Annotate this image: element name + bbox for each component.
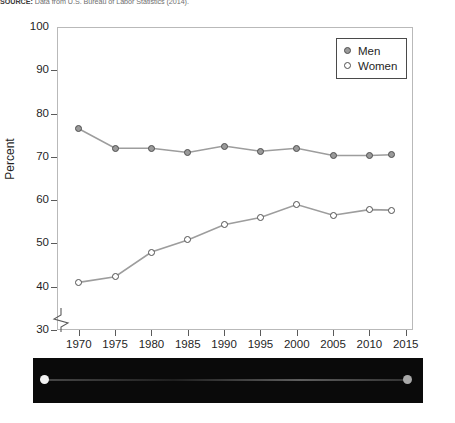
series-line-women — [79, 204, 391, 282]
y-tick-label: 50 — [23, 237, 49, 249]
legend-label: Women — [358, 60, 397, 72]
data-point-men — [148, 145, 155, 152]
x-tick-mark — [297, 330, 298, 336]
source-note: SOURCE: Data from U.S. Bureau of Labor S… — [0, 0, 455, 8]
legend-marker-women-icon — [344, 62, 351, 69]
x-tick-mark — [369, 330, 370, 336]
y-tick-label: 70 — [23, 151, 49, 163]
data-point-women — [330, 212, 337, 219]
data-point-women — [148, 249, 155, 256]
x-tick-mark — [151, 330, 152, 336]
data-point-men — [330, 152, 337, 159]
y-tick-label: 40 — [23, 281, 49, 293]
line-chart: Percent 30405060708090100 19701975198019… — [0, 10, 455, 355]
white-dot-icon — [40, 375, 49, 384]
legend-item-men: Men — [344, 43, 397, 58]
x-tick-label: 1975 — [95, 338, 135, 350]
x-tick-label: 1995 — [240, 338, 280, 350]
x-tick-mark — [406, 330, 407, 336]
scan-artifact-bar — [33, 358, 423, 403]
x-tick-label: 1980 — [131, 338, 171, 350]
x-tick-mark — [188, 330, 189, 336]
legend-item-women: Women — [344, 58, 397, 73]
x-tick-label: 2005 — [313, 338, 353, 350]
data-point-women — [366, 206, 373, 213]
data-point-men — [112, 145, 119, 152]
y-tick-label: 80 — [23, 108, 49, 120]
gray-dot-icon — [403, 375, 412, 384]
x-tick-label: 1985 — [168, 338, 208, 350]
chart-legend: MenWomen — [336, 38, 407, 79]
data-point-women — [112, 273, 119, 280]
data-point-women — [388, 207, 395, 214]
y-tick-label: 90 — [23, 64, 49, 76]
source-note-text: Data from U.S. Bureau of Labor Statistic… — [33, 0, 189, 6]
y-tick-label: 30 — [23, 324, 49, 336]
x-tick-mark — [115, 330, 116, 336]
x-tick-label: 1990 — [204, 338, 244, 350]
y-tick-label: 60 — [23, 194, 49, 206]
data-point-men — [388, 151, 395, 158]
scan-streak — [47, 379, 409, 381]
x-tick-mark — [333, 330, 334, 336]
x-tick-mark — [260, 330, 261, 336]
data-point-men — [293, 145, 300, 152]
x-tick-label: 1970 — [59, 338, 99, 350]
x-tick-mark — [79, 330, 80, 336]
y-tick-label: 100 — [23, 21, 49, 33]
x-tick-mark — [224, 330, 225, 336]
series-line-men — [79, 129, 391, 156]
data-point-women — [221, 221, 228, 228]
x-tick-label: 2015 — [386, 338, 426, 350]
source-note-label: SOURCE: — [0, 0, 33, 6]
legend-marker-men-icon — [344, 47, 351, 54]
x-tick-label: 2010 — [349, 338, 389, 350]
data-point-men — [366, 152, 373, 159]
legend-label: Men — [358, 45, 380, 57]
y-axis-title: Percent — [3, 99, 17, 219]
x-tick-label: 2000 — [277, 338, 317, 350]
data-point-women — [257, 214, 264, 221]
data-point-men — [221, 143, 228, 150]
data-point-men — [257, 148, 264, 155]
